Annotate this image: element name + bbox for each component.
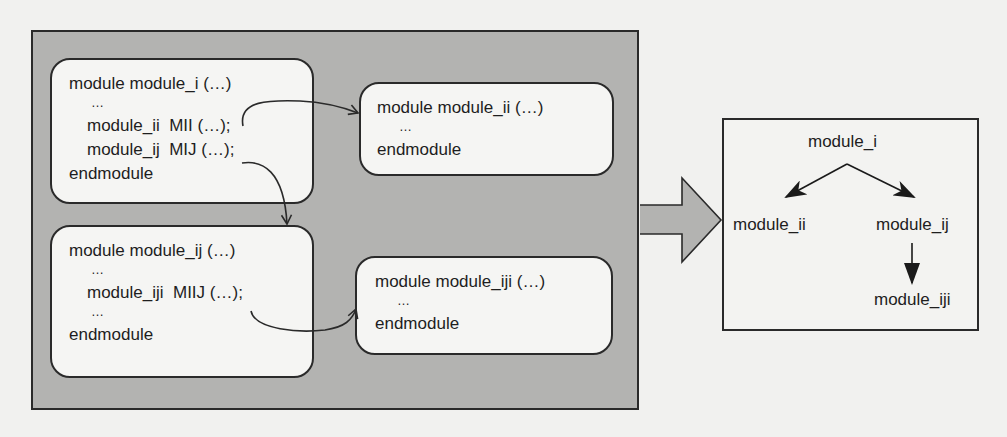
module-iji-box: module module_iji (…) … endmodule <box>355 256 613 355</box>
ellipsis: … <box>375 294 611 312</box>
endmodule-keyword: endmodule <box>69 162 312 186</box>
ellipsis: … <box>377 120 612 138</box>
ellipsis: … <box>69 305 312 323</box>
module-iji-header: module module_iji (…) <box>375 270 611 294</box>
hierarchy-tree-box: module_i module_ii module_ij module_iji <box>722 118 979 331</box>
module-i-header: module module_i (…) <box>69 72 312 96</box>
right-block-arrow-icon <box>640 178 721 262</box>
tree-node-module-ij: module_ij <box>876 215 949 235</box>
endmodule-keyword: endmodule <box>375 312 611 336</box>
tree-node-module-i: module_i <box>808 132 877 152</box>
ellipsis: … <box>69 263 312 281</box>
module-ij-header: module module_ij (…) <box>69 239 312 263</box>
module-i-box: module module_i (…) … module_ii MII (…);… <box>50 58 314 204</box>
ellipsis: … <box>69 96 312 114</box>
endmodule-keyword: endmodule <box>377 138 612 162</box>
tree-node-module-ii: module_ii <box>733 215 806 235</box>
instance-mii: module_ii MII (…); <box>69 114 312 138</box>
module-ij-box: module module_ij (…) … module_iji MIIJ (… <box>50 225 314 378</box>
module-ii-box: module module_ii (…) … endmodule <box>359 82 614 176</box>
instance-miij: module_iji MIIJ (…); <box>69 281 312 305</box>
module-ii-header: module module_ii (…) <box>377 96 612 120</box>
tree-node-module-iji: module_iji <box>874 290 951 310</box>
endmodule-keyword: endmodule <box>69 323 312 347</box>
instance-mij: module_ij MIJ (…); <box>69 138 312 162</box>
